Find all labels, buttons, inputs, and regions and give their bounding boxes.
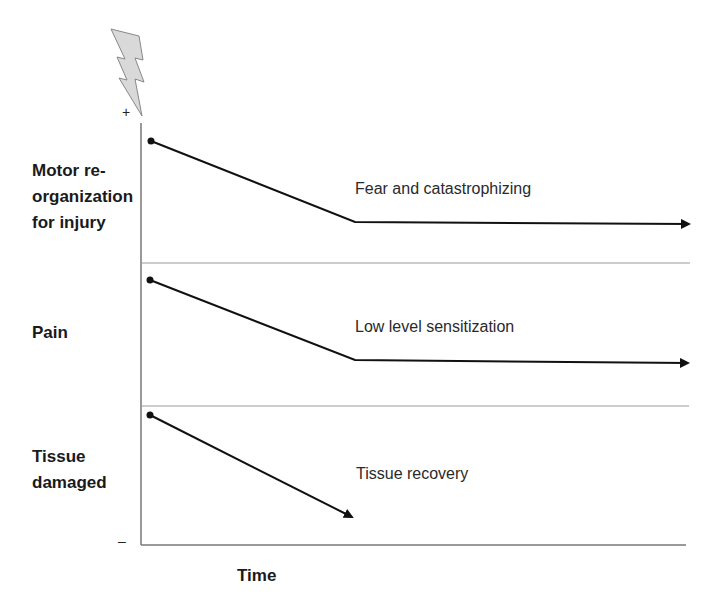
row-label-pain: Pain bbox=[32, 320, 68, 346]
row-label-tissue: Tissue damaged bbox=[32, 444, 107, 496]
diagram-canvas bbox=[0, 0, 716, 603]
curve-label-fear: Fear and catastrophizing bbox=[355, 180, 531, 198]
row-label-motor: Motor re- organization for injury bbox=[32, 158, 133, 236]
y-axis-minus-sign: – bbox=[118, 533, 126, 549]
curve-tissue bbox=[150, 415, 352, 517]
x-axis-title: Time bbox=[237, 566, 276, 586]
curve-label-sensitization: Low level sensitization bbox=[355, 318, 514, 336]
curve-label-tissue-recovery: Tissue recovery bbox=[356, 465, 468, 483]
y-axis-plus-sign: + bbox=[122, 104, 130, 120]
lightning-bolt-icon bbox=[111, 29, 144, 116]
